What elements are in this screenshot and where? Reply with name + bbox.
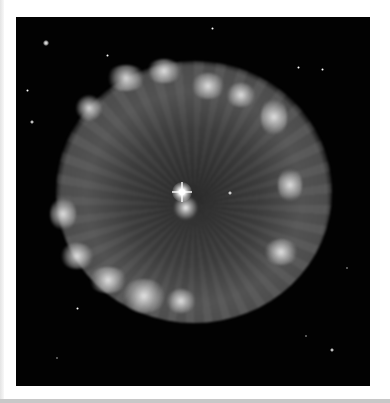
field-star (211, 27, 214, 30)
rim-knot (278, 167, 302, 203)
field-star (228, 191, 232, 195)
field-star (330, 348, 334, 352)
bottom-edge (0, 399, 390, 403)
rim-knot (226, 83, 256, 107)
field-star (30, 120, 34, 124)
field-star (305, 335, 307, 337)
rim-knot (122, 279, 166, 313)
rim-knot (76, 95, 102, 121)
rim-knot (191, 73, 225, 99)
field-star (26, 89, 29, 92)
rim-knot (261, 97, 287, 137)
page-edge (0, 0, 4, 403)
nebula-photo (16, 17, 370, 386)
rim-knot (166, 289, 196, 313)
rim-knot (50, 197, 76, 231)
field-star (56, 357, 58, 359)
rim-knot (88, 267, 128, 293)
field-star (43, 40, 49, 46)
field-star (346, 267, 348, 269)
rim-knot (146, 59, 182, 83)
rim-knot (264, 239, 298, 265)
rim-knot (106, 65, 146, 91)
field-star (106, 54, 109, 57)
rim-knot (60, 243, 94, 269)
field-star (76, 307, 79, 310)
field-star (321, 68, 324, 71)
central-star (172, 182, 192, 202)
field-star (297, 66, 300, 69)
